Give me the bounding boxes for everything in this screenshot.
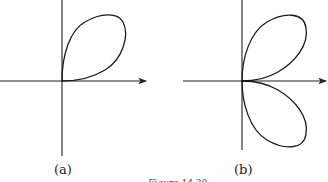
figure-a-leaf-curve: [62, 15, 126, 81]
figure-b-lower-leaf-curve: [242, 81, 306, 147]
figure-b-upper-leaf-curve: [242, 15, 306, 81]
figure-a-label: (a): [54, 162, 72, 177]
figure-canvas: (a) (b) Figure 14.20: [0, 0, 328, 182]
figure-b: [183, 0, 326, 150]
figure-caption: Figure 14.20: [147, 178, 207, 182]
figure-a: [0, 0, 146, 156]
figure-b-label: (b): [234, 162, 252, 177]
